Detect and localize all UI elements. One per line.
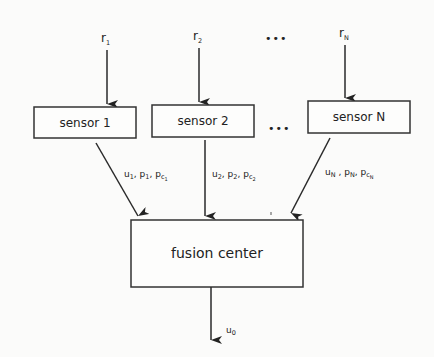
sensor-box-1: sensor 1	[34, 107, 136, 138]
link-label-1: u1, p1, pc1	[124, 169, 168, 182]
distributed-detection-diagram: r1 r2 rN ••• sensor 1 sensor 2 ••• senso…	[0, 0, 434, 357]
input-label-r1: r1	[101, 31, 110, 47]
fusion-center-label: fusion center	[171, 245, 263, 261]
input-label-r2: r2	[193, 29, 202, 45]
fusion-center-box: fusion center	[131, 220, 303, 287]
sensor-box-2: sensor 2	[152, 105, 254, 137]
sensor-label-2: sensor 2	[177, 114, 228, 128]
input-label-rN: rN	[339, 26, 349, 42]
ellipsis-middle: •••	[268, 122, 290, 135]
sensor-label-1: sensor 1	[59, 116, 110, 130]
output-label: u0	[226, 325, 236, 337]
ellipsis-top: •••	[265, 32, 287, 45]
sensor-box-N: sensor N	[308, 101, 410, 133]
sensor-label-N: sensor N	[333, 110, 386, 124]
link-label-2: u2, p2, pc2	[212, 169, 256, 182]
link-label-N: uN , pN, pcN	[325, 167, 374, 180]
